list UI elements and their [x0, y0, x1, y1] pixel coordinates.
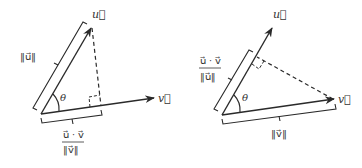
left-label-norm-u: ‖u⃗‖ — [20, 51, 36, 63]
right-label-theta: θ — [242, 92, 248, 103]
left-angle-arc — [53, 94, 59, 111]
left-label-projection-denominator: ‖v⃗‖ — [63, 144, 79, 156]
vector-projection-figure: u⃗ v⃗ θ ‖u⃗‖ u⃗ · v⃗ ‖v⃗‖ u⃗ v⃗ θ u⃗ · v… — [0, 0, 362, 168]
left-label-v: v⃗ — [158, 92, 171, 105]
right-label-projection-numerator: u⃗ · v⃗ — [200, 55, 221, 66]
right-label-u: u⃗ — [273, 8, 287, 21]
right-perpendicular-dashed — [257, 57, 333, 99]
left-label-u: u⃗ — [92, 8, 106, 21]
left-projection-brace-tick — [72, 119, 73, 124]
right-label-norm-v: ‖v⃗‖ — [271, 128, 287, 140]
left-norm-u-brace-tick — [54, 63, 58, 65]
right-right-angle-marker — [252, 61, 264, 69]
right-diagram: u⃗ v⃗ θ u⃗ · v⃗ ‖u⃗‖ ‖v⃗‖ — [199, 8, 351, 140]
right-label-v: v⃗ — [338, 93, 351, 106]
left-diagram: u⃗ v⃗ θ ‖u⃗‖ u⃗ · v⃗ ‖v⃗‖ — [20, 8, 171, 156]
left-label-projection-numerator: u⃗ · v⃗ — [63, 129, 84, 140]
left-vector-v — [41, 98, 154, 114]
left-perpendicular-dashed — [92, 28, 101, 106]
left-projection-brace — [41, 110, 102, 123]
right-angle-arc — [234, 95, 240, 112]
right-label-projection-denominator: ‖u⃗‖ — [200, 71, 216, 83]
left-label-theta: θ — [60, 92, 66, 103]
